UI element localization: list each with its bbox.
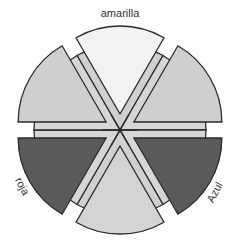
color-wheel-diagram: amarilla roja Azul (0, 0, 237, 249)
label-amarilla: amarilla (101, 7, 140, 19)
center-dot (118, 128, 121, 131)
